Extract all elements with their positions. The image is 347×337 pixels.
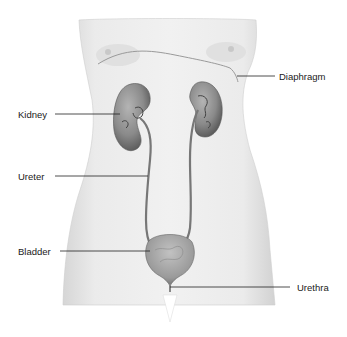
label-ureter: Ureter [18,172,44,182]
label-kidney: Kidney [18,110,47,120]
urethra [169,284,171,292]
label-bladder: Bladder [18,247,51,257]
label-urethra: Urethra [297,283,329,293]
label-diaphragm: Diaphragm [279,72,325,82]
urinary-system-figure [0,0,347,337]
genital-cleft [163,295,177,322]
right-breast-shading [206,42,246,62]
